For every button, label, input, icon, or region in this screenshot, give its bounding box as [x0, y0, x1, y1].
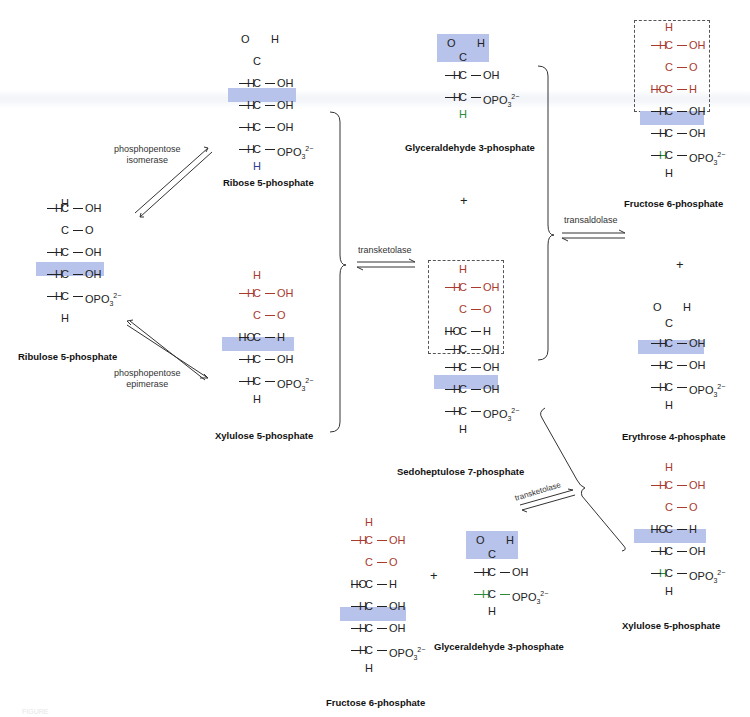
atom: C	[663, 562, 675, 584]
atom: C	[363, 529, 375, 551]
atom-row: H	[613, 398, 733, 412]
atom: OH	[483, 276, 500, 298]
atom: OPO	[483, 94, 507, 106]
atom-row: H	[201, 160, 321, 172]
atom: OH	[689, 540, 706, 562]
atom-row: HCOH	[613, 34, 733, 56]
atom-row: CO	[313, 551, 433, 573]
enzyme-epimerase-line2: epimerase	[114, 379, 181, 390]
atom-row: H	[313, 515, 433, 529]
molecule-glyceraldehyde-3-phosphate: OH C HCOH HCOPO32− H	[407, 36, 527, 120]
atom: 2−	[511, 93, 519, 100]
atom: C	[59, 263, 71, 285]
label-glyceraldehyde-3-phosphate: Glyceraldehyde 3-phosphate	[405, 142, 535, 153]
atom-row: HCOH	[9, 241, 129, 263]
atom-row: H	[613, 166, 733, 180]
atom: C	[457, 342, 469, 356]
figure-label: FIGURE	[22, 708, 48, 715]
atom: H	[663, 20, 675, 34]
atom: C	[251, 304, 263, 326]
enzyme-isomerase-line2: isomerase	[114, 155, 181, 166]
atom: H	[689, 518, 697, 540]
label-fructose-6-phosphate-2: Fructose 6-phosphate	[326, 697, 425, 708]
molecule-fructose-6-phosphate: H HCOH CO HOCH HCOH HCOH HCOPO32− H	[613, 20, 733, 180]
atom-row: C	[613, 314, 733, 332]
atom: C	[457, 276, 469, 298]
plus-sign: +	[460, 193, 468, 208]
molecule-glyceraldehyde-3-phosphate-2: OH C HCOH HCOPO32− H	[436, 533, 556, 617]
atom: 3	[713, 159, 717, 166]
atom-row: H	[407, 422, 527, 436]
atom: 3	[301, 153, 305, 160]
atom: 2−	[717, 383, 725, 390]
atom-row: HOCH	[407, 320, 527, 342]
atom: OPO	[689, 570, 713, 582]
enzyme-isomerase-line1: phosphopentose	[114, 144, 181, 155]
atom: H	[506, 533, 514, 547]
atom: OPO	[85, 293, 109, 305]
atom: C	[59, 285, 71, 307]
atom-row: HCOH	[613, 354, 733, 376]
atom-row: CO	[9, 219, 129, 241]
atom: O	[389, 551, 398, 573]
atom: O	[483, 298, 492, 320]
enzyme-transaldolase: transaldolase	[564, 215, 618, 226]
atom: C	[663, 122, 675, 144]
atom: 2−	[305, 377, 313, 384]
atom: C	[251, 116, 263, 138]
atom: H	[689, 78, 697, 100]
atom: OH	[483, 342, 500, 356]
atom: H	[477, 36, 485, 50]
atom: C	[663, 56, 675, 78]
enzyme-isomerase: phosphopentose isomerase	[114, 144, 181, 166]
atom: OH	[483, 64, 500, 86]
atom-row: HCOH	[407, 342, 527, 356]
atom: 3	[109, 300, 113, 307]
atom: C	[363, 573, 375, 595]
atom-row: HCOPO32−	[613, 562, 733, 584]
molecule-sedoheptulose-7-phosphate: H HCOH CO HOCH HCOH HCOH HCOH HCOPO32− H	[407, 262, 527, 436]
atom-row: HCOPO32−	[407, 400, 527, 422]
atom: C	[363, 595, 375, 617]
atom-row: HOCH	[613, 518, 733, 540]
atom-row: HCOH	[201, 94, 321, 116]
atom: H	[271, 28, 279, 50]
pathway-diagram: phosphopentose isomerase phosphopentose …	[0, 0, 750, 717]
atom: C	[251, 370, 263, 392]
atom-row: HCOH	[613, 332, 733, 354]
atom-row: HCOH	[436, 561, 556, 583]
atom: C	[663, 144, 675, 166]
atom: C	[457, 298, 469, 320]
atom: OPO	[512, 591, 536, 603]
enzyme-transketolase-1: transketolase	[358, 245, 412, 256]
atom: C	[663, 34, 675, 56]
atom: 2−	[717, 569, 725, 576]
atom: C	[251, 348, 263, 370]
atom: OPO	[689, 384, 713, 396]
atom: 3	[507, 101, 511, 108]
atom-row: HCOH	[613, 474, 733, 496]
atom: 2−	[417, 646, 425, 653]
atom: OH	[689, 332, 706, 354]
label-ribose-5-phosphate: Ribose 5-phosphate	[223, 177, 314, 188]
atom: C	[363, 551, 375, 573]
atom: C	[663, 376, 675, 398]
atom-row: HCOH	[9, 263, 129, 285]
atom-row: HCOH	[201, 116, 321, 138]
molecule-fructose-6-phosphate-2: H HCOH CO HOCH HCOH HCOH HCOPO32− H	[313, 515, 433, 675]
label-glyceraldehyde-3-phosphate-2: Glyceraldehyde 3-phosphate	[434, 641, 564, 652]
atom: OH	[85, 197, 102, 219]
atom: C	[251, 50, 263, 72]
atom: OH	[277, 94, 294, 116]
atom: C	[486, 547, 498, 561]
atom: OH	[483, 378, 500, 400]
atom: H	[457, 422, 469, 436]
atom-row: HCOPO32−	[407, 86, 527, 108]
atom: OH	[512, 561, 529, 583]
atom: H	[483, 320, 491, 342]
atom-row: CO	[613, 496, 733, 518]
atom-row: HOCH	[613, 78, 733, 100]
atom: O	[689, 56, 698, 78]
atom-row: H	[407, 108, 527, 120]
atom: 3	[507, 415, 511, 422]
